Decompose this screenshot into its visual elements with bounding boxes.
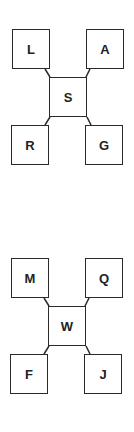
node-center: S	[49, 77, 87, 117]
node-bottom-left: R	[11, 125, 49, 165]
node-center: W	[48, 306, 86, 346]
node-bottom-right: J	[84, 354, 122, 394]
node-top-left: M	[11, 258, 49, 298]
node-top-left: L	[12, 29, 50, 69]
node-top-right: A	[86, 29, 124, 69]
node-bottom-left: F	[10, 354, 48, 394]
node-top-right: Q	[85, 258, 123, 298]
node-bottom-right: G	[85, 125, 123, 165]
